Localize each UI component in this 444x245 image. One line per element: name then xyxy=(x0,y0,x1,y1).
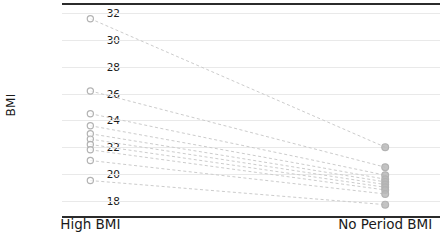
x-axis-category-label-no-period-bmi: No Period BMI xyxy=(338,216,432,232)
data-point-marker xyxy=(382,164,389,171)
data-point-marker xyxy=(87,177,93,183)
series-connector-line xyxy=(90,19,385,147)
series-connector-line xyxy=(90,181,385,205)
data-point-marker xyxy=(382,201,389,208)
series-connector-line xyxy=(90,126,385,180)
data-point-marker xyxy=(382,191,389,198)
data-point-marker xyxy=(87,111,93,117)
plot-area xyxy=(62,8,440,210)
data-point-marker xyxy=(87,123,93,129)
chart-canvas: BMI 1820222426283032 High BMINo Period B… xyxy=(0,0,444,245)
plot-top-rule xyxy=(62,3,440,5)
series-connector-line xyxy=(90,139,385,184)
data-point-marker xyxy=(87,88,93,94)
y-axis-title: BMI xyxy=(2,0,20,210)
data-point-marker xyxy=(87,157,93,163)
x-axis-category-label-high-bmi: High BMI xyxy=(60,216,120,232)
data-point-marker xyxy=(87,16,93,22)
series-layer xyxy=(62,8,440,210)
data-point-marker xyxy=(382,144,389,151)
series-connector-line xyxy=(90,134,385,182)
data-point-marker xyxy=(87,147,93,153)
y-axis-title-text: BMI xyxy=(4,93,18,116)
